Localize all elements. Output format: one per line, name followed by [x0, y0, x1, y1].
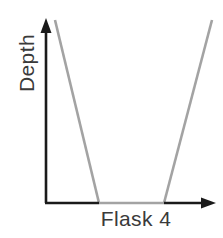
flask-outline: [55, 20, 212, 203]
flask-left-wall: [55, 20, 99, 203]
x-axis-arrow-icon: [201, 198, 216, 209]
x-axis-label: Flask 4: [86, 206, 186, 232]
y-axis-arrow-icon: [41, 18, 52, 33]
axes-group: [41, 18, 217, 209]
y-axis-label: Depth: [14, 8, 40, 118]
flask-right-wall: [164, 20, 212, 203]
flask-depth-figure: Depth Flask 4: [0, 0, 223, 238]
